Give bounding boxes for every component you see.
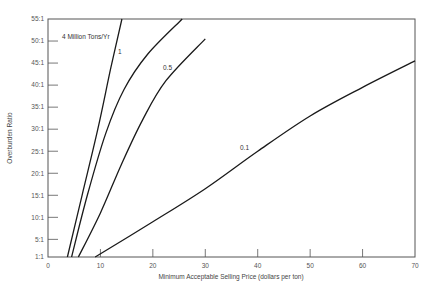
x-tick-label: 30 bbox=[202, 262, 210, 269]
series-line bbox=[72, 19, 183, 257]
x-tick-label: 70 bbox=[411, 262, 419, 269]
y-tick-label: 50:1 bbox=[31, 37, 44, 44]
y-tick-label: 10:1 bbox=[31, 214, 44, 221]
y-tick-label: 30:1 bbox=[31, 125, 44, 132]
y-tick-label: 1:1 bbox=[35, 253, 44, 260]
x-tick-label: 0 bbox=[46, 262, 50, 269]
y-axis-title: Overburden Ratio bbox=[6, 112, 13, 164]
x-tick-label: 60 bbox=[359, 262, 367, 269]
x-tick-label: 20 bbox=[149, 262, 157, 269]
series-line bbox=[67, 19, 122, 257]
x-tick-label: 50 bbox=[307, 262, 315, 269]
x-tick-label: 40 bbox=[254, 262, 262, 269]
y-tick-label: 20:1 bbox=[31, 170, 44, 177]
overburden-chart: 010203040506070 1:15:110:115:120:125:130… bbox=[0, 0, 437, 295]
series-line bbox=[95, 61, 415, 257]
series-lines: 4 Million Tons/Yr10.50.1 bbox=[62, 19, 415, 257]
x-axis: 010203040506070 bbox=[46, 249, 419, 269]
y-tick-label: 45:1 bbox=[31, 59, 44, 66]
series-label: 0.1 bbox=[240, 144, 249, 151]
y-tick-label: 55:1 bbox=[31, 15, 44, 22]
x-tick-label: 10 bbox=[97, 262, 105, 269]
y-tick-label: 25:1 bbox=[31, 148, 44, 155]
y-tick-label: 15:1 bbox=[31, 192, 44, 199]
plot-border bbox=[48, 19, 415, 257]
series-label: 1 bbox=[118, 48, 122, 55]
series-label: 4 Million Tons/Yr bbox=[62, 33, 110, 40]
y-axis: 1:15:110:115:120:125:130:135:140:145:150… bbox=[31, 15, 58, 260]
plot-frame bbox=[48, 19, 415, 257]
series-label: 0.5 bbox=[163, 64, 172, 71]
y-tick-label: 35:1 bbox=[31, 103, 44, 110]
y-tick-label: 40:1 bbox=[31, 81, 44, 88]
series-line bbox=[78, 39, 205, 257]
x-axis-title: Minimum Acceptable Selling Price (dollar… bbox=[158, 273, 303, 281]
y-tick-label: 5:1 bbox=[35, 236, 44, 243]
